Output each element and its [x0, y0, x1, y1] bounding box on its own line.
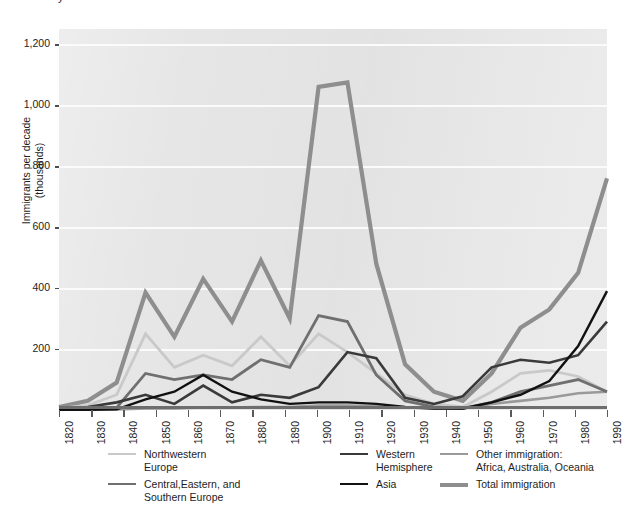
x-tick-label: 1900	[321, 421, 333, 444]
x-tick-mark	[510, 410, 511, 417]
x-tick-label: 1820	[63, 421, 75, 444]
x-tick-label: 1960	[514, 421, 526, 444]
y-tick-mark	[55, 227, 59, 228]
x-tick-label: 1870	[224, 421, 236, 444]
x-tick-label: 1890	[289, 421, 301, 444]
legend-item-central-eastern-southern-europe[interactable]: Central,Eastern, and Southern Europe	[108, 478, 240, 503]
x-tick-mark	[285, 410, 286, 417]
x-tick-label: 1850	[160, 421, 172, 444]
x-tick-label: 1840	[127, 421, 139, 444]
x-tick-label: 1970	[547, 421, 559, 444]
y-tick-mark	[55, 166, 59, 167]
clipped-top-text: y	[58, 0, 64, 3]
series-line-total-immigration	[59, 82, 607, 407]
x-tick-mark	[123, 410, 124, 417]
x-tick-mark	[478, 410, 479, 417]
y-tick-label: 200	[0, 342, 50, 354]
x-tick-mark	[349, 410, 350, 417]
y-tick-mark	[55, 105, 59, 106]
legend-swatch-central-eastern-southern-europe	[108, 483, 136, 485]
x-tick-label: 1940	[450, 421, 462, 444]
legend-swatch-total-immigration	[440, 483, 468, 487]
legend-item-northwestern-europe[interactable]: Northwestern Europe	[108, 448, 206, 473]
legend-swatch-asia	[340, 483, 368, 485]
x-tick-label: 1880	[256, 421, 268, 444]
y-tick-label: 1,000	[0, 98, 50, 110]
y-tick-label: 800	[0, 159, 50, 171]
x-tick-label: 1950	[482, 421, 494, 444]
legend-swatch-western-hemisphere	[340, 453, 368, 455]
y-tick-label: 600	[0, 220, 50, 232]
legend-label-central-eastern-southern-europe: Central,Eastern, and Southern Europe	[144, 478, 240, 503]
x-tick-label: 1990	[611, 421, 623, 444]
x-tick-mark	[543, 410, 544, 417]
legend-swatch-other-immigration	[440, 453, 468, 455]
x-tick-mark	[188, 410, 189, 417]
y-tick-label: 1,200	[0, 37, 50, 49]
legend-swatch-northwestern-europe	[108, 453, 136, 455]
x-tick-mark	[446, 410, 447, 417]
legend-label-other-immigration: Other immigration: Africa, Australia, Oc…	[476, 448, 594, 473]
x-tick-label: 1830	[95, 421, 107, 444]
y-tick-label: 400	[0, 281, 50, 293]
chart-page: y Immigrants per decade (thousands) 1,20…	[0, 0, 628, 514]
series-lines	[59, 29, 607, 410]
x-axis-baseline	[59, 406, 607, 409]
x-tick-label: 1920	[385, 421, 397, 444]
legend-label-total-immigration: Total immigration	[476, 478, 555, 491]
x-tick-label: 1860	[192, 421, 204, 444]
legend-item-western-hemisphere[interactable]: Western Hemisphere	[340, 448, 433, 473]
legend-item-total-immigration[interactable]: Total immigration	[440, 478, 555, 491]
x-tick-mark	[252, 410, 253, 417]
x-tick-label: 1910	[353, 421, 365, 444]
y-tick-mark	[55, 44, 59, 45]
legend-item-other-immigration[interactable]: Other immigration: Africa, Australia, Oc…	[440, 448, 594, 473]
y-tick-mark	[55, 349, 59, 350]
x-tick-mark	[317, 410, 318, 417]
x-tick-mark	[220, 410, 221, 417]
x-tick-label: 1980	[579, 421, 591, 444]
legend-label-asia: Asia	[376, 478, 396, 491]
x-tick-mark	[414, 410, 415, 417]
series-line-western-hemisphere	[59, 322, 607, 409]
legend-label-northwestern-europe: Northwestern Europe	[144, 448, 206, 473]
y-tick-mark	[55, 288, 59, 289]
x-tick-mark	[575, 410, 576, 417]
x-tick-mark	[381, 410, 382, 417]
chart-legend: Northwestern EuropeWestern HemisphereOth…	[0, 448, 628, 510]
legend-label-western-hemisphere: Western Hemisphere	[376, 448, 433, 473]
plot-area	[59, 29, 607, 410]
x-tick-mark	[156, 410, 157, 417]
x-tick-mark	[91, 410, 92, 417]
legend-item-asia[interactable]: Asia	[340, 478, 396, 491]
x-tick-mark	[607, 410, 608, 417]
x-tick-mark	[59, 410, 60, 417]
x-tick-label: 1930	[418, 421, 430, 444]
